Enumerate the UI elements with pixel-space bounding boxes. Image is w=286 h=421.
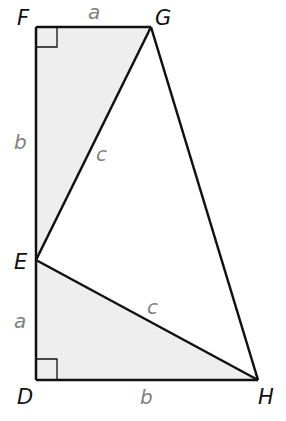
side-label-fg: a — [88, 0, 100, 24]
vertex-label-h: H — [258, 385, 274, 409]
side-label-fe: b — [14, 130, 27, 154]
side-label-eg: c — [96, 142, 107, 166]
side-label-eh: c — [147, 295, 158, 319]
side-label-dh: b — [140, 385, 153, 409]
trapezoid-diagram: F G E D H a b c a b c — [0, 0, 286, 421]
side-label-ed: a — [14, 309, 26, 333]
vertex-label-f: F — [17, 6, 30, 30]
edge-gh — [151, 27, 258, 380]
vertex-label-d: D — [17, 385, 33, 409]
vertex-label-g: G — [155, 6, 171, 30]
vertex-label-e: E — [14, 250, 28, 274]
